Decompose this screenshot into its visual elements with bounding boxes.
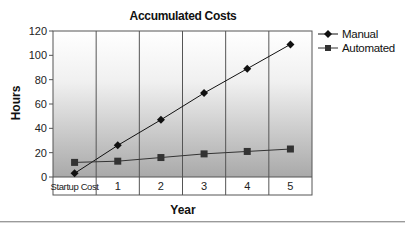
y-tick-label: 60 xyxy=(35,98,47,110)
y-tick-label: 0 xyxy=(41,171,47,183)
y-tick-label: 20 xyxy=(35,147,47,159)
legend-label: Automated xyxy=(342,42,395,54)
data-point xyxy=(157,154,164,161)
y-tick-label: 40 xyxy=(35,122,47,134)
square-marker-icon xyxy=(318,43,338,53)
data-point xyxy=(71,159,78,166)
divider-shadow xyxy=(0,222,405,223)
legend-item-manual: Manual xyxy=(318,27,395,41)
legend-item-automated: Automated xyxy=(318,41,395,55)
category-label: 1 xyxy=(115,180,121,192)
category-labels: Startup Cost12345 xyxy=(51,180,294,192)
category-label: 5 xyxy=(287,180,293,192)
legend-label: Manual xyxy=(342,28,378,40)
legend: Manual Automated xyxy=(318,27,395,55)
y-axis-ticks: 020406080100120 xyxy=(29,25,53,183)
data-point xyxy=(114,158,121,165)
category-label: 4 xyxy=(244,180,250,192)
diamond-marker-icon xyxy=(318,29,338,39)
category-label: 2 xyxy=(158,180,164,192)
y-tick-label: 120 xyxy=(29,25,47,37)
category-label: 3 xyxy=(201,180,207,192)
category-label: Startup Cost xyxy=(51,181,100,192)
data-point xyxy=(244,148,251,155)
y-tick-label: 100 xyxy=(29,49,47,61)
data-point xyxy=(201,150,208,157)
y-tick-label: 80 xyxy=(35,74,47,86)
data-point xyxy=(287,146,294,153)
